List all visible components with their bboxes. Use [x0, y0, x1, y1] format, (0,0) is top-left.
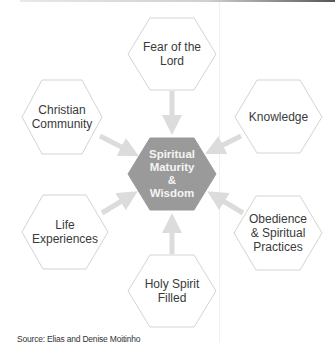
source-caption: Source: Elias and Denise Moitinho [17, 334, 140, 344]
node-obedience-label: Obedience & Spiritual Practices [234, 196, 322, 270]
node-community-label: Christian Community [22, 80, 102, 154]
node-life-label: Life Experiences [22, 195, 108, 269]
node-fear-label: Fear of the Lord [128, 18, 216, 90]
node-knowledge-label: Knowledge [235, 80, 322, 153]
node-holy-spirit-label: Holy Spirit Filled [128, 255, 216, 327]
node-center-label: Spiritual Maturity & Wisdom [128, 138, 216, 210]
arrow-community [100, 136, 131, 152]
